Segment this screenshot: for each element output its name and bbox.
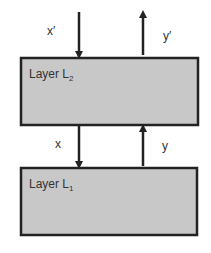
label-y: y: [162, 139, 168, 153]
label-x: x: [55, 137, 61, 151]
layer-l2-label: Layer L2: [29, 67, 74, 83]
layer-diagram: x′ y′ Layer L2 x y Layer L1: [0, 0, 211, 253]
layer-l1-label: Layer L1: [29, 177, 74, 193]
label-y-prime: y′: [163, 29, 172, 43]
label-x-prime: x′: [47, 24, 56, 38]
